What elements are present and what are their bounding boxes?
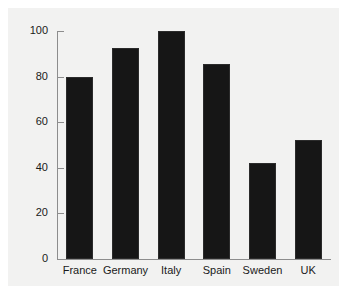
bar-germany [112, 48, 139, 259]
x-tick-label: Italy [161, 263, 181, 277]
y-tick-label: 60 [36, 115, 48, 128]
x-tick-label: Sweden [243, 263, 283, 277]
x-axis-labels: FranceGermanyItalySpainSwedenUK [57, 263, 331, 283]
bar-sweden [249, 163, 276, 259]
bar-france [66, 77, 93, 259]
y-tick-label: 100 [30, 24, 48, 37]
bar-chart-figure: 020406080100 FranceGermanyItalySpainSwed… [0, 0, 347, 294]
bar-italy [158, 31, 185, 259]
y-tick-mark [58, 259, 64, 260]
y-tick: 0 [57, 259, 64, 260]
y-tick-label: 40 [36, 161, 48, 174]
bar-spain [203, 64, 230, 259]
x-tick-label: Spain [203, 263, 231, 277]
x-tick-label: UK [301, 263, 316, 277]
x-tick-label: France [63, 263, 97, 277]
y-tick-label: 80 [36, 70, 48, 83]
x-tick-label: Germany [103, 263, 148, 277]
plot-area: 020406080100 FranceGermanyItalySpainSwed… [57, 31, 331, 259]
x-axis-line [57, 259, 331, 260]
y-tick-label: 0 [42, 252, 48, 265]
y-tick-label: 20 [36, 206, 48, 219]
bar-group [57, 31, 331, 259]
bar-uk [295, 140, 322, 259]
